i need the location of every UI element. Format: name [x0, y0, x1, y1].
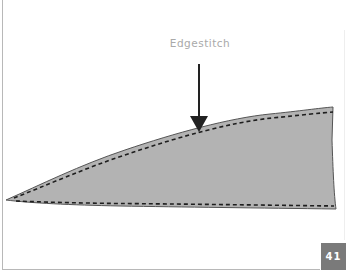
fabric-piece — [6, 107, 336, 209]
diagram-frame: Edgestitch 41 — [0, 0, 346, 276]
page-number: 41 — [326, 251, 342, 262]
page-number-badge: 41 — [321, 243, 346, 270]
edgestitch-label: Edgestitch — [160, 37, 240, 49]
down-arrow-icon — [190, 64, 208, 132]
